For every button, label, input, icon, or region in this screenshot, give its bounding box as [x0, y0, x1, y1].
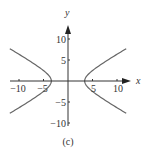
figure-caption: (c) — [62, 136, 73, 148]
y-tick-label: 5 — [61, 55, 66, 66]
y-tick-label: −10 — [50, 118, 66, 129]
x-axis-label: x — [135, 75, 141, 86]
y-tick-label: −5 — [55, 97, 66, 108]
x-axis-arrow-icon — [122, 78, 131, 84]
x-tick-label: −10 — [10, 83, 26, 94]
y-tick-label: 10 — [56, 34, 66, 45]
hyperbola-chart: −10−5510105−5−10 x y (c) — [0, 0, 148, 157]
y-axis-label: y — [64, 7, 70, 18]
x-tick-label: 5 — [91, 83, 96, 94]
x-tick-label: −5 — [37, 83, 48, 94]
x-tick-label: 10 — [113, 83, 123, 94]
